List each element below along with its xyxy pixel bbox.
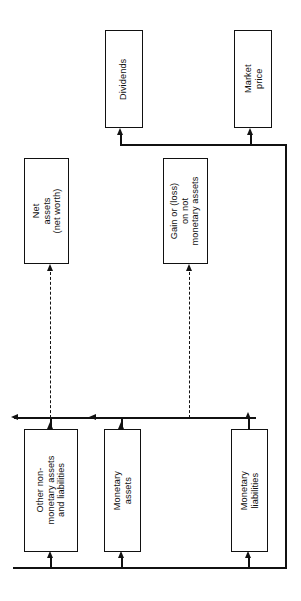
node-other-non-monetary-assets-label: Other non- monetary assets and liabiliti… <box>35 456 67 525</box>
node-net-assets-label: Net assets (net worth) <box>31 188 63 233</box>
connector-bottom-to-monetary-assets <box>121 558 123 568</box>
connector-net-assets-feed <box>50 272 51 418</box>
arrowhead-market-price <box>247 128 253 135</box>
arrowhead-middle-bus-left-end <box>11 414 18 420</box>
connector-bottom-to-other-non-monetary <box>50 558 52 568</box>
connector-middle-bus-right-corner <box>254 417 256 419</box>
arrowhead-monetary-assets-bottom <box>118 551 124 558</box>
node-other-non-monetary-assets[interactable]: Other non- monetary assets and liabiliti… <box>24 429 78 552</box>
node-monetary-liabilities-label: Monetary liabilities <box>239 471 260 510</box>
arrowhead-dividends <box>117 128 123 135</box>
arrowhead-other-non-monetary-bottom <box>47 551 53 558</box>
connector-top-bus-to-market-price <box>250 135 252 145</box>
node-gain-or-loss-label: Gain or (loss) on not monetary assets <box>169 177 201 246</box>
connector-right-riser <box>285 145 287 568</box>
connector-top-bus <box>120 144 287 146</box>
node-dividends-label: Dividends <box>119 58 130 99</box>
node-market-price[interactable]: Market price <box>234 30 272 128</box>
node-market-price-label: Market price <box>242 65 263 94</box>
connector-bottom-to-monetary-liabilities <box>248 558 250 568</box>
connector-monetary-liabilities-to-middle-bus <box>248 419 250 429</box>
node-gain-or-loss[interactable]: Gain or (loss) on not monetary assets <box>163 158 208 264</box>
arrowhead-net-assets <box>47 264 53 271</box>
node-net-assets[interactable]: Net assets (net worth) <box>24 158 69 264</box>
connector-top-bus-to-dividends <box>120 135 122 145</box>
connector-gain-or-loss-feed <box>189 272 190 418</box>
arrowhead-gain-or-loss <box>186 264 192 271</box>
node-monetary-assets[interactable]: Monetary assets <box>104 429 141 552</box>
node-dividends[interactable]: Dividends <box>105 30 143 128</box>
node-monetary-liabilities[interactable]: Monetary liabilities <box>231 429 268 552</box>
connector-bottom-bus <box>13 567 287 569</box>
arrowhead-monetary-assets-top <box>118 422 124 429</box>
arrowhead-middle-bus-mid <box>89 414 96 420</box>
arrowhead-monetary-liabilities-bottom <box>245 551 251 558</box>
arrowhead-monetary-liabilities-top <box>245 412 251 419</box>
node-monetary-assets-label: Monetary assets <box>112 471 133 510</box>
arrowhead-other-non-monetary-top <box>47 422 53 429</box>
diagram-canvas: Dividends Market price Net assets (net w… <box>0 0 301 601</box>
